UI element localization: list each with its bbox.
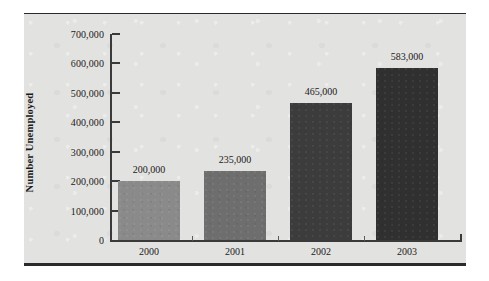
y-tick-label-text: 200,000: [71, 176, 104, 187]
bar-chart-figure: Number Unemployed 0100,000200,000300,000…: [0, 0, 489, 281]
y-tick-label-text: 100,000: [71, 205, 104, 216]
x-category-label: 2003: [397, 246, 417, 257]
x-tick-mark: [192, 236, 193, 241]
x-category-label: 2001: [225, 246, 245, 257]
x-tick-mark: [364, 236, 365, 241]
x-axis-endcap-tick: [460, 234, 462, 241]
y-tick-label-text: 500,000: [71, 87, 104, 98]
y-tick-mark: [112, 92, 120, 94]
y-tick-label-text: 300,000: [71, 146, 104, 157]
bar-value-label: 235,000: [219, 154, 252, 165]
x-category-label: 2000: [139, 246, 159, 257]
bar-fill: [204, 171, 266, 240]
bar[interactable]: 235,000: [204, 171, 266, 240]
y-axis-line: [110, 34, 112, 241]
y-axis-title: Number Unemployed: [24, 73, 35, 213]
bar-fill: [290, 103, 352, 240]
y-tick-label-text: 0: [99, 235, 104, 246]
x-tick-mark: [278, 236, 279, 241]
y-tick-mark: [112, 151, 120, 153]
y-tick-mark: [112, 33, 120, 35]
bar[interactable]: 200,000: [118, 181, 180, 240]
bar-value-label: 465,000: [305, 86, 338, 97]
x-axis-line: [110, 240, 462, 242]
y-tick-mark: [112, 62, 120, 64]
bar[interactable]: 583,000: [376, 68, 438, 240]
x-category-label: 2002: [311, 246, 331, 257]
plot-area: Number Unemployed 0100,000200,000300,000…: [0, 0, 489, 281]
bar-value-label: 583,000: [391, 51, 424, 62]
y-tick-label-text: 400,000: [71, 117, 104, 128]
y-tick-mark: [112, 121, 120, 123]
bar-fill: [376, 68, 438, 240]
bar[interactable]: 465,000: [290, 103, 352, 240]
bar-fill: [118, 181, 180, 240]
y-tick-label-text: 700,000: [71, 29, 104, 40]
bar-value-label: 200,000: [133, 164, 166, 175]
y-tick-label-text: 600,000: [71, 58, 104, 69]
